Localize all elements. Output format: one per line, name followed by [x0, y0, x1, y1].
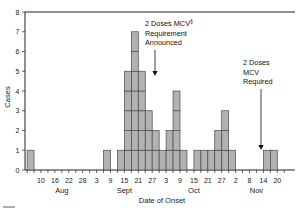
bar-case-cell — [173, 91, 180, 111]
bar-case-cell — [124, 150, 131, 170]
bar — [180, 150, 187, 170]
bar-case-cell — [270, 150, 277, 170]
bar-case-cell — [131, 91, 138, 111]
x-tick-label: 21 — [204, 177, 212, 184]
bar-case-cell — [131, 131, 138, 151]
bar-case-cell — [27, 150, 34, 170]
bar-case-cell — [222, 131, 229, 151]
x-tick-label: 14 — [260, 177, 268, 184]
bar-case-cell — [145, 131, 152, 151]
x-tick-label: 16 — [51, 177, 59, 184]
annotation-line: Announced — [145, 38, 182, 47]
bar-case-cell — [166, 131, 173, 151]
y-tick-label: 3 — [16, 107, 20, 114]
bar-case-cell — [229, 150, 236, 170]
bar-case-cell — [159, 150, 166, 170]
bar-series — [27, 32, 277, 170]
bar-case-cell — [117, 150, 124, 170]
bar-case-cell — [131, 32, 138, 52]
bar-case-cell — [166, 150, 173, 170]
y-axis-title: Cases — [3, 86, 12, 108]
x-tick-label: 9 — [178, 177, 182, 184]
bar-case-cell — [124, 71, 131, 91]
y-axis-ticks: 012345678 — [16, 9, 25, 174]
bar — [222, 111, 229, 170]
bar-case-cell — [173, 131, 180, 151]
x-tick-label: 10 — [37, 177, 45, 184]
bar — [173, 91, 180, 170]
bar-case-cell — [173, 150, 180, 170]
bar-case-cell — [124, 91, 131, 111]
month-label: Sept — [117, 186, 133, 195]
bar — [263, 150, 270, 170]
bar — [138, 71, 145, 170]
bar — [27, 150, 34, 170]
bar — [215, 131, 222, 171]
bar-case-cell — [124, 111, 131, 131]
bar — [270, 150, 277, 170]
bar-case-cell — [131, 71, 138, 91]
x-tick-label: 15 — [121, 177, 129, 184]
y-tick-label: 6 — [16, 48, 20, 55]
bar — [159, 150, 166, 170]
bar — [104, 150, 111, 170]
bar-case-cell — [263, 150, 270, 170]
y-tick-label: 2 — [16, 127, 20, 134]
x-axis-title: Date of Onset — [139, 196, 186, 205]
annotation-line: 2 Doses MCV§ — [145, 18, 193, 28]
annotation-mcv-announced: 2 Doses MCV§RequirementAnnounced — [145, 18, 193, 76]
month-label: Oct — [188, 186, 201, 195]
bar-case-cell — [131, 150, 138, 170]
x-tick-label: 20 — [273, 177, 281, 184]
bar-case-cell — [215, 150, 222, 170]
x-tick-label: 22 — [65, 177, 73, 184]
bar-case-cell — [222, 111, 229, 131]
y-tick-label: 4 — [16, 88, 20, 95]
bar-case-cell — [138, 91, 145, 111]
bar-case-cell — [152, 131, 159, 151]
x-tick-label: 21 — [134, 177, 142, 184]
bar — [208, 150, 215, 170]
bar — [194, 150, 201, 170]
annotation-arrowhead-icon — [258, 145, 263, 150]
annotation-line: 2 Doses — [243, 58, 270, 67]
y-tick-label: 5 — [16, 68, 20, 75]
bar-case-cell — [138, 111, 145, 131]
x-tick-label: 15 — [190, 177, 198, 184]
month-label: Nov — [250, 186, 264, 195]
x-axis-month-labels: AugSeptOctNov — [55, 186, 263, 195]
chart-annotations: 2 Doses MCV§RequirementAnnounced2 DosesM… — [145, 18, 273, 150]
annotation-mcv-required: 2 DosesMCVRequired — [243, 58, 273, 150]
y-tick-label: 8 — [16, 9, 20, 16]
bar — [145, 111, 152, 170]
annotation-line: Requirement — [145, 29, 187, 38]
x-tick-label: 3 — [95, 177, 99, 184]
bar-case-cell — [124, 131, 131, 151]
bar-case-cell — [138, 150, 145, 170]
bar-case-cell — [145, 111, 152, 131]
x-tick-label: 27 — [218, 177, 226, 184]
bar-case-cell — [194, 150, 201, 170]
x-tick-label: 2 — [234, 177, 238, 184]
y-tick-label: 0 — [16, 167, 20, 174]
bar-case-cell — [145, 150, 152, 170]
annotation-line: Required — [243, 77, 273, 86]
bar-case-cell — [173, 111, 180, 131]
month-label: Aug — [55, 186, 68, 195]
x-tick-label: 9 — [109, 177, 113, 184]
bar-case-cell — [201, 150, 208, 170]
x-tick-label: 8 — [248, 177, 252, 184]
bar — [152, 131, 159, 171]
y-tick-label: 1 — [16, 147, 20, 154]
bar-case-cell — [208, 150, 215, 170]
x-tick-label: 28 — [79, 177, 87, 184]
bar-case-cell — [222, 150, 229, 170]
footnote-marker: § — [190, 18, 193, 24]
annotation-arrowhead-icon — [152, 71, 157, 76]
annotation-line: MCV — [243, 68, 259, 77]
bar — [201, 150, 208, 170]
y-tick-label: 7 — [16, 28, 20, 35]
x-tick-label: 27 — [148, 177, 156, 184]
bar-case-cell — [138, 131, 145, 151]
x-axis-tick-labels: 101622283915212739152127281420 — [37, 177, 281, 184]
